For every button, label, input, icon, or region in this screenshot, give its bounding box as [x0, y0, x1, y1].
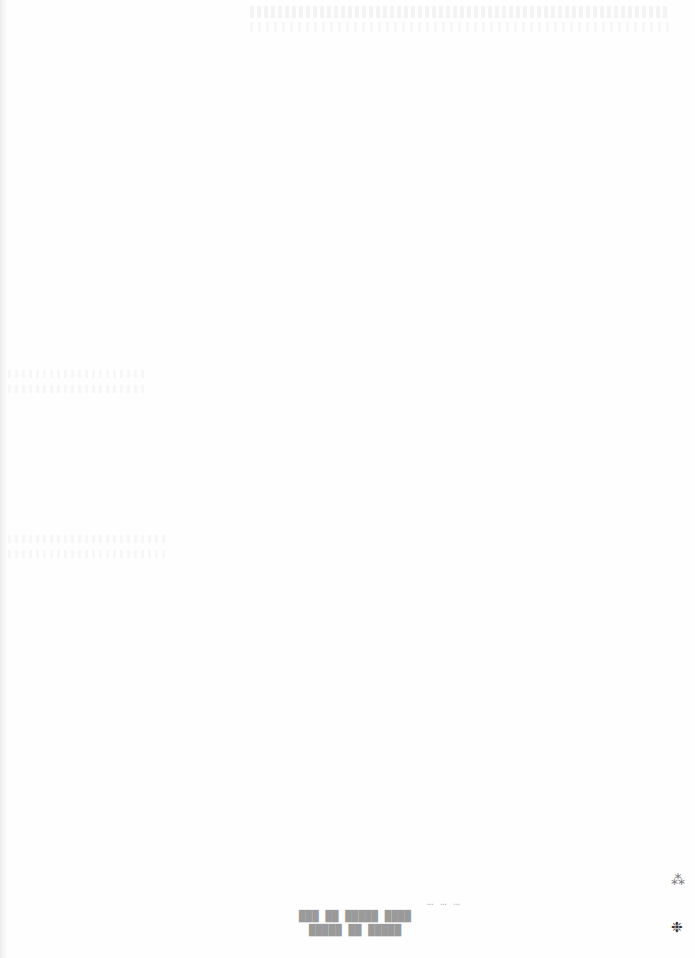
ink-mark-icon: ⁂ [671, 873, 685, 887]
bleed-through-text [8, 535, 168, 543]
ink-smudge-icon: ❉ [671, 920, 683, 934]
bleed-through-text [8, 385, 148, 393]
address-stamp-line: █████ ██ █████ [240, 923, 470, 937]
address-stamp-line: ████ █████ ██ ███ [240, 909, 470, 923]
scanned-page: … … … ████ █████ ██ ███ █████ ██ █████ ⁂… [0, 0, 695, 958]
bleed-through-text [250, 6, 670, 18]
bleed-through-text [8, 370, 148, 378]
address-stamp-line: … … … [240, 895, 470, 909]
page-edge-shadow [0, 0, 6, 958]
bleed-through-text [250, 22, 670, 32]
bleed-through-text [8, 550, 168, 558]
address-stamp: … … … ████ █████ ██ ███ █████ ██ █████ [240, 895, 470, 937]
